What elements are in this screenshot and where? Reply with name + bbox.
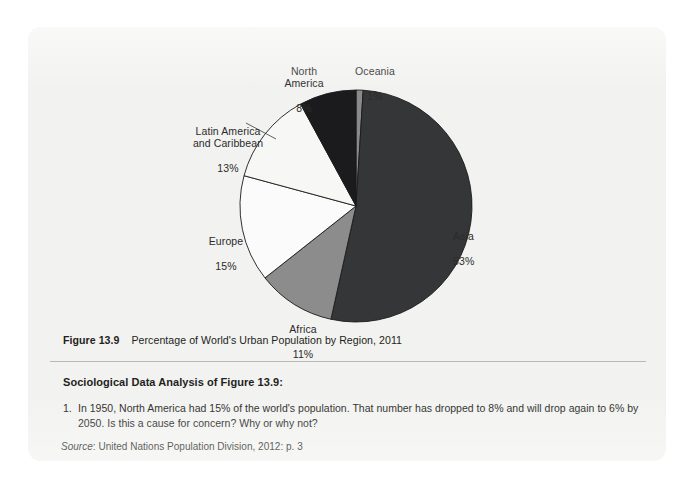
pie-label-asia: Asia 53%	[453, 217, 523, 280]
pie-label-europe-value: 15%	[188, 260, 264, 273]
pie-label-oceania-value: 1%	[334, 90, 416, 103]
pie-label-oceania: Oceania 1%	[334, 52, 416, 115]
source-text: : United Nations Population Division, 20…	[93, 441, 303, 452]
pie-label-latin-america-caribbean-value: 13%	[168, 162, 288, 175]
figure-caption: Figure 13.9Percentage of World's Urban P…	[63, 334, 638, 346]
list-item: 1. In 1950, North America had 15% of the…	[63, 401, 651, 431]
pie-label-north-america: North America 8%	[273, 52, 335, 127]
pie-label-latin-america-caribbean-name: Latin America and Caribbean	[168, 125, 288, 150]
question-number: 1.	[63, 401, 78, 431]
pie-label-europe-name: Europe	[188, 235, 264, 248]
source-line: Source: United Nations Population Divisi…	[61, 441, 303, 452]
figure-caption-text: Percentage of World's Urban Population b…	[119, 334, 402, 346]
analysis-question-list: 1. In 1950, North America had 15% of the…	[63, 401, 651, 431]
pie-label-oceania-name: Oceania	[334, 65, 416, 78]
figure-number: Figure 13.9	[63, 334, 119, 346]
analysis-heading: Sociological Data Analysis of Figure 13.…	[63, 376, 283, 388]
horizontal-divider	[50, 361, 646, 362]
pie-label-north-america-name: North America	[273, 65, 335, 90]
content-panel: Oceania 1% Asia 53% Africa 11% Europe 15…	[28, 27, 666, 461]
question-text: In 1950, North America had 15% of the wo…	[78, 401, 651, 431]
pie-chart: Oceania 1% Asia 53% Africa 11% Europe 15…	[28, 27, 666, 337]
pie-label-latin-america-caribbean: Latin America and Caribbean 13%	[168, 112, 288, 187]
pie-label-europe: Europe 15%	[188, 222, 264, 285]
pie-label-asia-value: 53%	[453, 255, 523, 268]
source-prefix: Source	[61, 441, 93, 452]
pie-label-north-america-value: 8%	[273, 102, 335, 115]
pie-label-africa-value: 11%	[268, 348, 338, 361]
pie-label-asia-name: Asia	[453, 230, 523, 243]
figure-page: Oceania 1% Asia 53% Africa 11% Europe 15…	[0, 0, 692, 483]
